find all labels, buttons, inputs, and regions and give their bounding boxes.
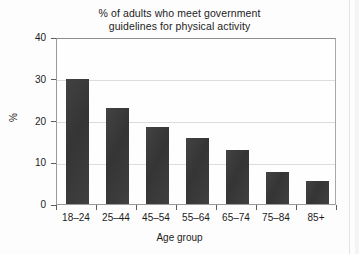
gridline [57,80,335,81]
x-tick-mark [216,205,217,210]
x-tick-label: 18–24 [56,212,96,223]
x-tick-label: 25–44 [96,212,136,223]
x-tick-label: 55–64 [176,212,216,223]
page-edge-line [349,0,350,254]
x-tick-mark [136,205,137,210]
x-tick-label: 85+ [296,212,336,223]
chart-figure: % of adults who meet government guidelin… [0,0,359,254]
chart-title-line-2: guidelines for physical activity [0,20,359,33]
gridline [57,122,335,123]
y-tick-label: 40 [20,33,46,43]
bar [186,138,209,204]
y-tick-label: 0 [20,200,46,210]
bar [266,172,289,204]
chart-title-line-1: % of adults who meet government [0,7,359,20]
x-tick-label: 65–74 [216,212,256,223]
x-tick-label: 45–54 [136,212,176,223]
x-tick-label: 75–84 [256,212,296,223]
x-tick-mark [256,205,257,210]
bar [66,79,89,204]
x-tick-mark [96,205,97,210]
bar [146,127,169,204]
x-tick-mark [176,205,177,210]
y-tick-label: 20 [20,117,46,127]
x-tick-mark [336,205,337,210]
x-axis-title: Age group [0,232,359,243]
x-tick-mark [296,205,297,210]
y-tick-label: 30 [20,75,46,85]
plot-area [56,38,336,205]
bar [306,181,329,204]
bar [226,150,249,204]
page-edge-shadow [355,0,359,254]
x-tick-mark [56,205,57,210]
y-tick-label: 10 [20,158,46,168]
chart-title: % of adults who meet government guidelin… [0,7,359,32]
bar [106,108,129,204]
y-axis-title: % [8,113,19,122]
